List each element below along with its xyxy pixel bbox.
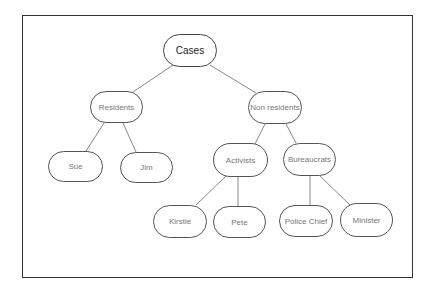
node-label: Activists: [226, 156, 255, 165]
node-label: Kirstie: [169, 217, 191, 226]
node-label: Residents: [99, 103, 135, 112]
node-non-residents: Non residents: [248, 91, 302, 124]
node-label: Cases: [176, 45, 204, 56]
edge-cases-residents: [133, 65, 173, 92]
edge-non-residents-bureaucrats: [286, 124, 296, 143]
edge-residents-jim: [123, 123, 136, 152]
edge-residents-sue: [86, 123, 104, 151]
node-residents: Residents: [90, 91, 143, 123]
node-jim: Jim: [120, 152, 173, 183]
node-pete: Pete: [213, 206, 266, 238]
node-label: Non residents: [250, 103, 299, 112]
node-label: Sue: [68, 162, 82, 171]
node-label: Police Chief: [285, 217, 328, 226]
node-label: Pete: [231, 218, 247, 227]
node-minister: Minister: [340, 203, 393, 237]
node-kirstie: Kirstie: [153, 205, 207, 238]
node-sue: Sue: [48, 151, 103, 182]
tree-edges: [0, 0, 432, 291]
edge-bureaucrats-minister: [320, 176, 350, 205]
node-cases: Cases: [163, 34, 217, 67]
node-bureaucrats: Bureaucrats: [283, 143, 336, 176]
node-label: Bureaucrats: [288, 155, 331, 164]
node-police-chief: Police Chief: [279, 205, 333, 237]
edge-non-residents-activists: [255, 124, 265, 144]
node-label: Minister: [352, 216, 380, 225]
node-activists: Activists: [213, 143, 268, 177]
edge-activists-kirstie: [196, 176, 226, 205]
node-label: Jim: [140, 163, 152, 172]
edge-cases-non-residents: [210, 65, 256, 93]
